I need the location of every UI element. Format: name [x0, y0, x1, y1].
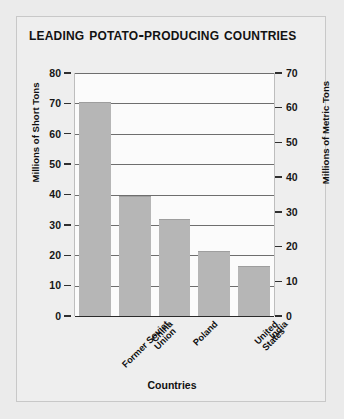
y-tick-right-mark: [275, 211, 282, 212]
y-tick-left-label: 10: [49, 280, 61, 291]
chart-title: Leading Potato-Producing Countries: [29, 25, 309, 44]
y-tick-right-mark: [275, 315, 282, 316]
y-tick-left-label: 0: [55, 311, 61, 322]
y-tick-left-label: 20: [49, 250, 61, 261]
y-tick-left-label: 60: [49, 129, 61, 140]
x-axis-category-labels: Former Soviet UnionChinaPolandUnited Sta…: [74, 317, 273, 379]
bars-group: [75, 73, 274, 316]
y-tick-right-label: 20: [286, 241, 298, 252]
y-tick-left-label: 80: [49, 68, 61, 79]
y-tick-left-mark: [64, 285, 71, 286]
y-tick-left-mark: [64, 133, 71, 134]
y-tick-left-mark: [64, 255, 71, 256]
y-tick-right-label: 0: [286, 311, 292, 322]
y-tick-left-mark: [64, 194, 71, 195]
y-tick-right-label: 60: [286, 102, 298, 113]
y-axis-right-title: Millions of Metric Tons: [320, 68, 331, 198]
y-tick-left-label: 40: [49, 189, 61, 200]
x-axis-category-label: Poland: [190, 319, 219, 348]
y-tick-left-mark: [64, 315, 71, 316]
y-tick-right-mark: [275, 72, 282, 73]
y-tick-left-mark: [64, 224, 71, 225]
y-tick-right-label: 40: [286, 172, 298, 183]
x-axis-title: Countries: [17, 379, 327, 391]
y-tick-left-mark: [64, 103, 71, 104]
bar: [119, 196, 151, 316]
y-tick-right-label: 50: [286, 137, 298, 148]
y-tick-right-mark: [275, 246, 282, 247]
y-axis-left: 80706050403020100: [17, 73, 74, 316]
chart-figure-panel: Leading Potato-Producing Countries 80706…: [16, 16, 326, 402]
y-tick-left-label: 50: [49, 159, 61, 170]
y-tick-right-mark: [275, 107, 282, 108]
y-tick-right-label: 10: [286, 276, 298, 287]
bar: [159, 219, 191, 316]
y-tick-left-mark: [64, 163, 71, 164]
y-tick-right-label: 70: [286, 68, 298, 79]
y-tick-left-label: 70: [49, 98, 61, 109]
y-tick-left-label: 30: [49, 220, 61, 231]
y-axis-left-title: Millions of Short Tons: [30, 68, 41, 198]
bar: [79, 102, 111, 316]
plot-area: [74, 73, 275, 316]
bar: [198, 251, 230, 316]
y-tick-right-mark: [275, 281, 282, 282]
y-tick-right-label: 30: [286, 207, 298, 218]
y-tick-right-mark: [275, 176, 282, 177]
y-tick-right-mark: [275, 142, 282, 143]
y-tick-left-mark: [64, 72, 71, 73]
bar: [238, 266, 270, 316]
